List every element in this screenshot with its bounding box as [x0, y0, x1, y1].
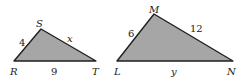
side-label-mn: 12 [190, 23, 203, 34]
vertex-label-m: M [148, 4, 160, 15]
vertex-label-l: L [113, 66, 121, 77]
side-label-lm: 6 [128, 28, 134, 39]
triangle-rst [14, 29, 96, 61]
side-label-rs: 4 [19, 37, 25, 48]
vertex-label-r: R [9, 66, 18, 77]
side-label-rt: 9 [51, 66, 57, 77]
vertex-label-t: T [92, 66, 100, 77]
vertex-label-s: S [36, 18, 43, 29]
similar-triangles-diagram: S R T 4 x 9 M L N 6 12 y [0, 0, 241, 77]
side-label-st: x [67, 33, 73, 44]
triangle-lmn [117, 14, 233, 61]
vertex-label-n: N [226, 66, 237, 77]
side-label-ln: y [170, 66, 177, 77]
